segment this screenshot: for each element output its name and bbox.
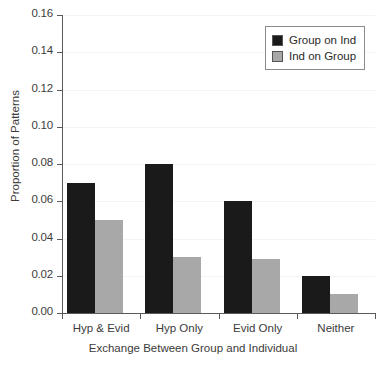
gridline [62,90,375,91]
x-axis-tick [62,313,63,319]
bar [330,294,358,313]
bar-chart: 0.160.140.120.100.080.060.040.020.00 Hyp… [0,0,386,366]
x-axis-title: Exchange Between Group and Individual [0,342,386,354]
bar [302,276,330,313]
legend-swatch [272,35,283,46]
y-axis-tick [57,90,62,91]
bar [145,164,173,313]
bar [67,183,95,313]
bar [173,257,201,313]
x-axis-tick [219,313,220,319]
legend-label: Group on Ind [289,34,356,46]
y-axis-tick [57,276,62,277]
y-axis-title: Proportion of Patterns [9,56,21,236]
y-axis-tick-label: 0.00 [9,305,53,317]
y-axis-tick [57,15,62,16]
x-axis-category-label: Evid Only [219,322,297,334]
x-axis-category-label: Hyp Only [140,322,218,334]
y-axis-tick [57,239,62,240]
gridline [62,127,375,128]
y-axis-tick [57,164,62,165]
y-axis-tick [57,52,62,53]
bar [252,259,280,313]
legend-label: Ind on Group [289,50,356,62]
legend: Group on IndInd on Group [265,26,365,70]
y-axis-line [62,15,63,314]
legend-item: Group on Ind [272,32,356,48]
legend-item: Ind on Group [272,48,356,64]
x-axis-tick [140,313,141,319]
legend-swatch [272,51,283,62]
y-axis-tick-label: 0.16 [9,7,53,19]
gridline [62,15,375,16]
y-axis-tick-label: 0.02 [9,268,53,280]
x-axis-tick [375,313,376,319]
y-axis-tick [57,127,62,128]
bar [224,201,252,313]
x-axis-tick [297,313,298,319]
x-axis-category-label: Hyp & Evid [62,322,140,334]
y-axis-tick [57,201,62,202]
x-axis-category-label: Neither [297,322,375,334]
y-axis-tick-label: 0.14 [9,44,53,56]
gridline [62,164,375,165]
bar [95,220,123,313]
gridline [62,201,375,202]
